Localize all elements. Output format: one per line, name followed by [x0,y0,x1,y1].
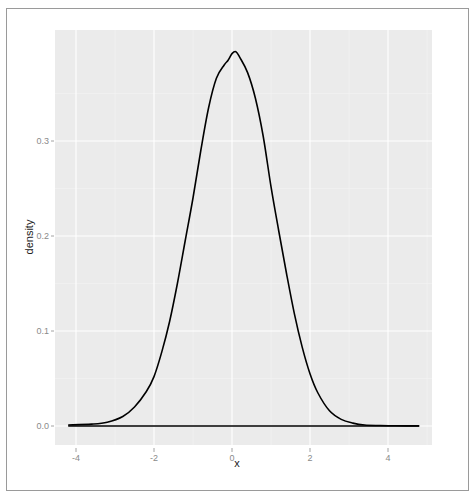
x-axis-title: x [234,457,240,469]
density-chart: -4-2024 0.00.10.20.3 x density [0,0,473,497]
y-axis: 0.00.10.20.3 [36,136,54,431]
x-tick-label: 2 [307,453,312,463]
y-tick-label: 0.1 [36,326,49,336]
x-tick-label: -4 [72,453,80,463]
y-tick-label: 0.2 [36,231,49,241]
x-tick-label: 4 [385,453,390,463]
y-axis-title: density [23,219,35,254]
y-tick-label: 0.0 [36,421,49,431]
plot-panel [55,30,432,445]
x-tick-label: -2 [150,453,158,463]
x-axis: -4-2024 [72,448,391,463]
y-tick-label: 0.3 [36,136,49,146]
